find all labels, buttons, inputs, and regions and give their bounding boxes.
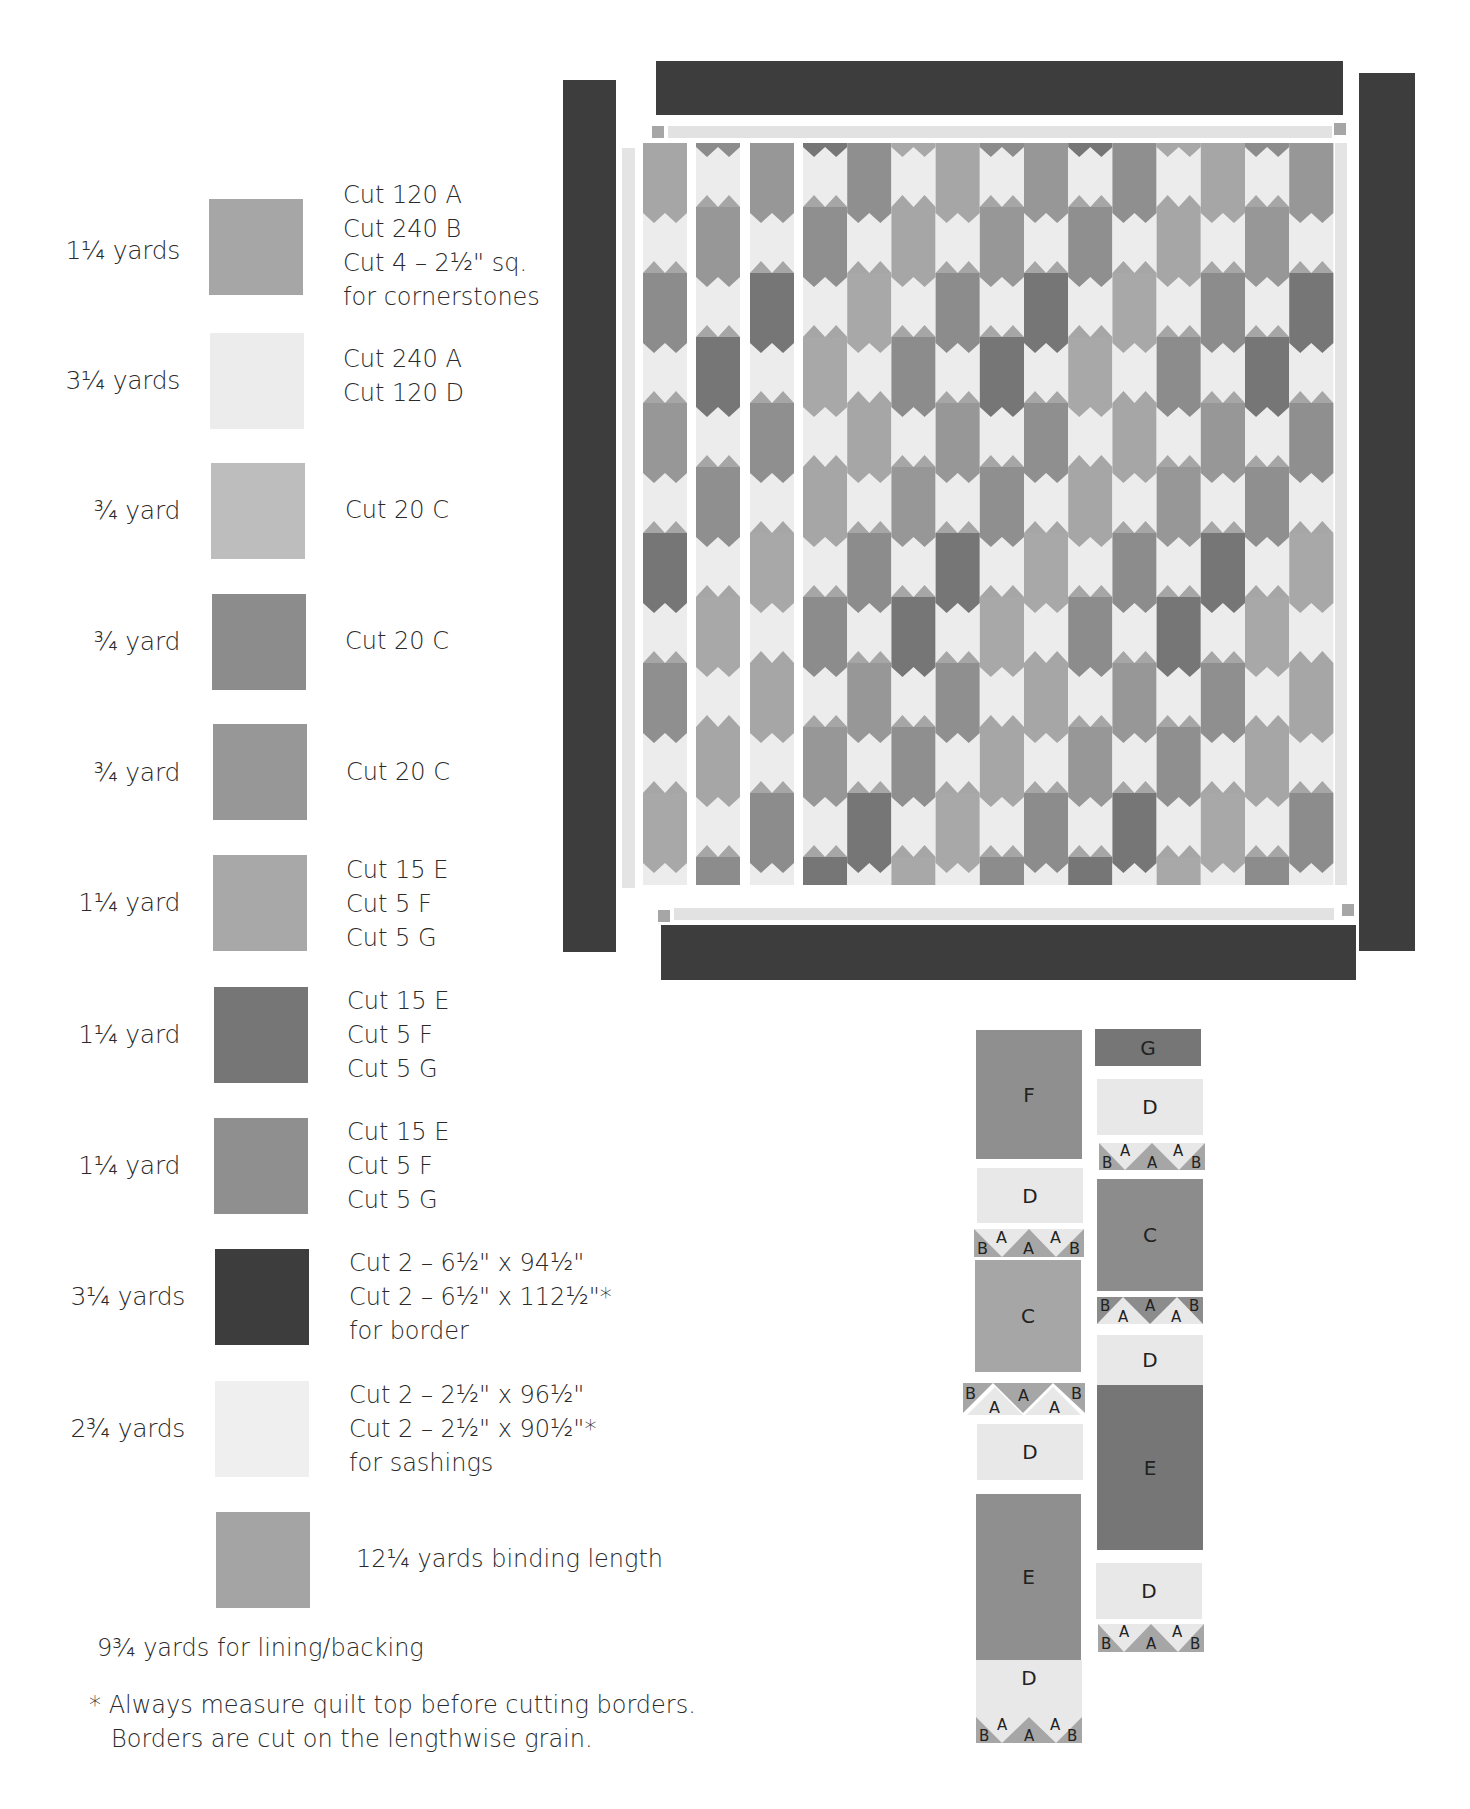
fabric-swatch: [210, 333, 304, 429]
cut-item: Cut 240 A: [343, 342, 464, 376]
cut-item: Cut 2 – 6½" x 112½"*: [349, 1280, 612, 1314]
cut-item: Cut 120 A: [343, 178, 540, 212]
cut-item: Cut 15 E: [347, 1115, 449, 1149]
cut-item: Cut 240 B: [343, 212, 540, 246]
cut-list: Cut 20 C: [345, 624, 449, 658]
svg-text:A: A: [1050, 1229, 1061, 1247]
fabric-qty: ¾ yard: [0, 758, 180, 787]
svg-text:B: B: [1191, 1154, 1201, 1170]
cut-item: Cut 5 F: [346, 887, 448, 921]
block-piece-c: C: [1097, 1179, 1203, 1291]
block-piece-d: D: [977, 1168, 1083, 1223]
block-piece-e: E: [1097, 1385, 1203, 1550]
block-piece-f: F: [976, 1030, 1082, 1159]
svg-text:A: A: [1049, 1398, 1060, 1415]
block-piece-d: D: [1097, 1335, 1203, 1385]
svg-text:A: A: [1146, 1635, 1157, 1652]
fabric-swatch: [214, 1118, 308, 1214]
cut-item: for border: [349, 1314, 612, 1348]
svg-text:A: A: [1172, 1624, 1183, 1641]
block-triangle-strip: B A A A B: [974, 1229, 1084, 1257]
svg-text:B: B: [979, 1727, 989, 1743]
bottom-sashing: [674, 908, 1334, 920]
block-piece-g: G: [1095, 1029, 1201, 1066]
fabric-qty: 1¼ yard: [0, 1151, 180, 1180]
svg-text:A: A: [1119, 1624, 1130, 1641]
cut-item: Cut 5 F: [347, 1018, 449, 1052]
block-piece-d: D: [1096, 1563, 1202, 1619]
fabric-swatch: [215, 1249, 309, 1345]
block-piece-d: D: [977, 1424, 1083, 1480]
svg-text:A: A: [1171, 1308, 1182, 1324]
cut-item: for cornerstones: [343, 280, 540, 314]
cut-list: Cut 15 E Cut 5 F Cut 5 G: [347, 984, 449, 1086]
cut-item: for sashings: [349, 1446, 596, 1480]
cut-list: 12¼ yards binding length: [356, 1542, 663, 1576]
cut-list: Cut 2 – 6½" x 94½" Cut 2 – 6½" x 112½"* …: [349, 1246, 612, 1348]
cut-item: Cut 15 E: [347, 984, 449, 1018]
cut-item: Cut 4 – 2½" sq.: [343, 246, 540, 280]
svg-text:B: B: [1067, 1727, 1077, 1743]
footnote-line-1: * Always measure quilt top before cuttin…: [89, 1688, 696, 1722]
fabric-qty: 3¼ yards: [5, 1282, 185, 1311]
top-sashing: [668, 126, 1332, 138]
fabric-swatch: [212, 594, 306, 690]
fabric-qty: 1¼ yards: [0, 236, 180, 265]
fabric-qty: ¾ yard: [0, 496, 180, 525]
svg-text:A: A: [997, 1717, 1008, 1734]
svg-text:A: A: [1173, 1143, 1184, 1160]
svg-text:B: B: [965, 1384, 976, 1403]
svg-text:A: A: [1024, 1727, 1035, 1743]
cornerstone: [1342, 904, 1354, 916]
svg-text:B: B: [977, 1239, 988, 1257]
fabric-swatch: [214, 987, 308, 1083]
cut-item: Cut 120 D: [343, 376, 464, 410]
binding-swatch: [216, 1512, 310, 1608]
cut-item: Cut 2 – 2½" x 90½"*: [349, 1412, 596, 1446]
cut-list: Cut 2 – 2½" x 96½" Cut 2 – 2½" x 90½"* f…: [349, 1378, 596, 1480]
cut-list: Cut 20 C: [345, 493, 449, 527]
block-triangle-strip: B A A A B: [976, 1717, 1082, 1743]
svg-text:A: A: [1018, 1386, 1029, 1405]
cut-item: Cut 5 G: [347, 1183, 449, 1217]
block-triangle-strip: B A A A B: [1098, 1624, 1204, 1652]
fabric-swatch: [213, 855, 307, 951]
fabric-qty: 1¼ yard: [0, 1020, 180, 1049]
svg-text:A: A: [996, 1229, 1007, 1247]
svg-text:B: B: [1100, 1297, 1110, 1315]
quilt-center-blocks: [640, 143, 1340, 888]
left-border: [563, 80, 616, 952]
cornerstone: [658, 910, 670, 922]
footnote-line-2: Borders are cut on the lengthwise grain.: [111, 1722, 593, 1756]
svg-text:B: B: [1069, 1239, 1080, 1257]
svg-text:B: B: [1189, 1297, 1199, 1315]
block-triangle-strip: B A A A B: [1097, 1297, 1203, 1324]
svg-text:A: A: [1120, 1143, 1131, 1160]
fabric-swatch: [211, 463, 305, 559]
svg-text:A: A: [989, 1398, 1000, 1415]
cut-list: Cut 15 E Cut 5 F Cut 5 G: [347, 1115, 449, 1217]
block-piece-c: C: [975, 1260, 1081, 1372]
fabric-swatch: [213, 724, 307, 820]
block-piece-d: D: [976, 1660, 1082, 1718]
cornerstone: [652, 126, 664, 138]
binding-length-text: 12¼ yards binding length: [356, 1542, 663, 1576]
block-triangle-strip: B A A A B: [1099, 1143, 1205, 1170]
lining-note: 9¾ yards for lining/backing: [97, 1631, 424, 1665]
svg-text:B: B: [1102, 1154, 1112, 1170]
cut-list: Cut 120 A Cut 240 B Cut 4 – 2½" sq. for …: [343, 178, 540, 314]
cut-list: Cut 20 C: [346, 755, 450, 789]
svg-text:A: A: [1118, 1308, 1129, 1324]
cut-list: Cut 15 E Cut 5 F Cut 5 G: [346, 853, 448, 955]
cut-item: Cut 5 F: [347, 1149, 449, 1183]
svg-text:A: A: [1023, 1239, 1034, 1257]
left-sashing: [622, 148, 635, 888]
top-border: [656, 61, 1343, 115]
fabric-qty: 2¾ yards: [5, 1414, 185, 1443]
fabric-swatch: [209, 199, 303, 295]
cut-item: Cut 2 – 2½" x 96½": [349, 1378, 596, 1412]
cut-item: Cut 2 – 6½" x 94½": [349, 1246, 612, 1280]
svg-text:B: B: [1190, 1635, 1200, 1652]
svg-text:A: A: [1145, 1297, 1156, 1315]
svg-text:A: A: [1147, 1154, 1158, 1170]
